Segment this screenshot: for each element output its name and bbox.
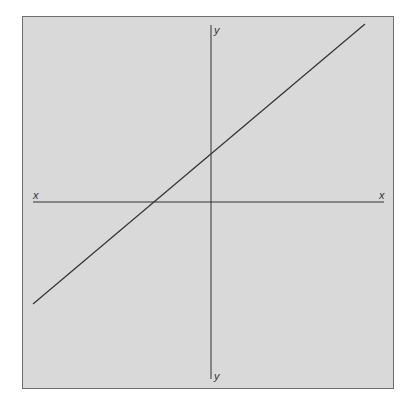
- y-axis-label-top: y: [213, 24, 221, 36]
- chart-canvas: x x y y: [0, 0, 415, 408]
- x-axis-label-right: x: [378, 189, 385, 201]
- x-axis-label-left: x: [32, 189, 39, 201]
- y-axis-label-bottom: y: [213, 370, 221, 382]
- function-line: [33, 24, 365, 304]
